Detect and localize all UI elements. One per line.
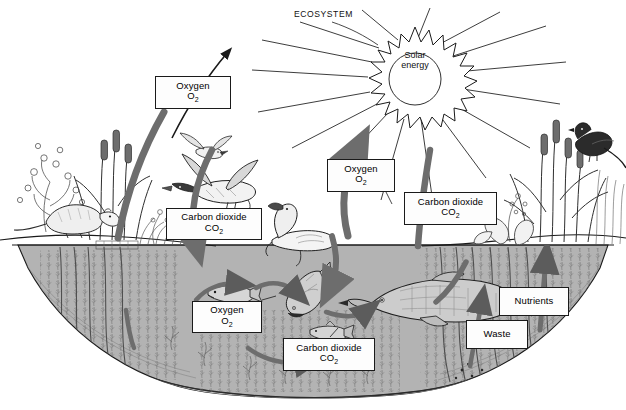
label-oxygen-underwater-formula: O2 — [221, 316, 233, 329]
label-oxygen-air-left: OxygenO2 — [155, 76, 231, 109]
label-nutrients-line1: Nutrients — [515, 296, 554, 307]
sky-region — [0, 0, 626, 245]
solar-energy-line1: Solar — [386, 50, 444, 60]
label-carbon-dioxide-underwater-formula: CO2 — [320, 353, 338, 366]
label-oxygen-center: OxygenO2 — [327, 159, 395, 192]
label-carbon-dioxide-air-left-formula: CO2 — [205, 223, 223, 236]
solar-energy-label: Solar energy — [386, 50, 444, 71]
solar-energy-line2: energy — [386, 60, 444, 70]
label-carbon-dioxide-underwater: Carbon dioxideCO2 — [283, 338, 375, 371]
ecosystem-diagram-canvas: ECOSYSTEM Solar energy OxygenO2Carbon di… — [0, 0, 626, 410]
label-carbon-dioxide-air-left: Carbon dioxideCO2 — [166, 208, 262, 240]
label-waste-line1: Waste — [483, 329, 510, 340]
label-nutrients: Nutrients — [499, 287, 569, 316]
label-oxygen-underwater: OxygenO2 — [192, 301, 262, 333]
label-waste: Waste — [466, 320, 528, 349]
label-oxygen-center-formula: O2 — [355, 174, 367, 187]
label-oxygen-air-left-formula: O2 — [187, 91, 199, 104]
label-carbon-dioxide-center: Carbon dioxideCO2 — [404, 192, 497, 225]
label-carbon-dioxide-center-formula: CO2 — [441, 207, 459, 220]
ecosystem-title: ECOSYSTEM — [294, 9, 353, 19]
